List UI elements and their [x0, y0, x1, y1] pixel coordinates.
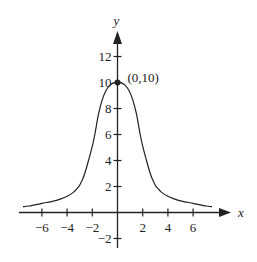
x-axis-label: x — [237, 205, 244, 220]
x-tick-label: 2 — [139, 220, 146, 235]
y-tick-label: 6 — [105, 127, 112, 142]
axes: xy — [19, 13, 244, 248]
y-axis-arrow-icon — [113, 31, 122, 44]
x-tick-label: −6 — [35, 220, 49, 235]
x-axis-arrow-icon — [219, 208, 231, 217]
y-tick-label: 2 — [105, 179, 112, 194]
x-tick-label: 4 — [165, 220, 172, 235]
y-tick-label: 8 — [105, 101, 112, 116]
y-tick-label: 10 — [99, 75, 112, 90]
y-tick-label: 12 — [99, 49, 112, 64]
y-axis-label: y — [112, 13, 120, 28]
y-tick-label: 4 — [105, 153, 112, 168]
point-label: (0,10) — [128, 70, 159, 85]
point-marker — [115, 80, 121, 86]
x-tick-label: 6 — [190, 220, 197, 235]
ticks: −6−4−2246−224681012 — [35, 49, 197, 246]
x-tick-label: −4 — [60, 220, 74, 235]
y-tick-label: −2 — [98, 231, 112, 246]
chart: xy −6−4−2246−224681012 (0,10) — [0, 0, 257, 262]
